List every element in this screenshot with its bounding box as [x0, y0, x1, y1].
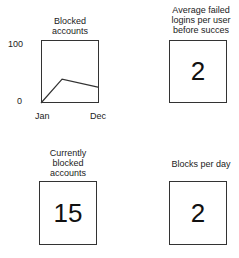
avg-failed-value: 2: [191, 56, 205, 87]
currently-blocked-card: 15: [39, 181, 97, 245]
blocked-accounts-chart: [41, 40, 99, 103]
blocks-per-day-title: Blocks per day: [166, 159, 236, 169]
avg-failed-title: Average failed logins per user before su…: [166, 5, 236, 35]
blocks-per-day-value: 2: [191, 198, 205, 229]
x-tick-end: Dec: [90, 111, 106, 121]
series-line-0: [41, 79, 99, 103]
y-tick-min: 0: [17, 96, 22, 106]
blocks-per-day-card: 2: [169, 181, 227, 245]
chart-title: Blocked accounts: [40, 16, 100, 36]
y-tick-max: 100: [8, 39, 23, 49]
x-tick-start: Jan: [35, 111, 50, 121]
currently-blocked-value: 15: [54, 198, 83, 229]
avg-failed-card: 2: [169, 40, 227, 103]
currently-blocked-title: Currently blocked accounts: [38, 148, 98, 178]
